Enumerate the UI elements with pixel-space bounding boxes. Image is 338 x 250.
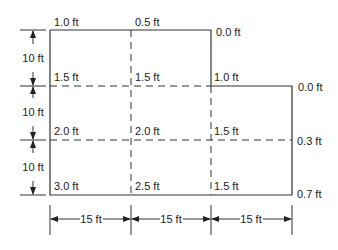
vertical-dimension-label: 10 ft — [22, 161, 43, 173]
node-label: 1.5 ft — [135, 71, 159, 83]
node-label: 1.5 ft — [214, 180, 238, 192]
vertical-dimension-label: 10 ft — [22, 52, 43, 64]
vertical-dimension-label: 10 ft — [22, 106, 43, 118]
horizontal-dimension-label: 15 ft — [160, 213, 181, 225]
node-label: 0.3 ft — [297, 135, 321, 147]
node-label: 1.0 ft — [214, 71, 238, 83]
node-label: 0.0 ft — [298, 81, 322, 93]
node-label: 1.0 ft — [54, 16, 78, 28]
node-label: 3.0 ft — [54, 180, 78, 192]
node-labels: 1.0 ft 0.5 ft 0.0 ft 1.5 ft 1.5 ft 1.0 f… — [54, 16, 322, 200]
outline — [50, 30, 292, 195]
grid-lines — [50, 30, 292, 195]
node-label: 1.5 ft — [214, 125, 238, 137]
node-label: 0.0 ft — [216, 26, 240, 38]
node-label: 1.5 ft — [54, 71, 78, 83]
node-label: 2.0 ft — [54, 125, 78, 137]
horizontal-dimension-label: 15 ft — [80, 213, 101, 225]
node-label: 2.5 ft — [135, 180, 159, 192]
node-label: 0.7 ft — [297, 188, 321, 200]
node-label: 2.0 ft — [135, 125, 159, 137]
node-label: 0.5 ft — [135, 16, 159, 28]
grid-diagram: 1.0 ft 0.5 ft 0.0 ft 1.5 ft 1.5 ft 1.0 f… — [0, 0, 338, 250]
horizontal-dimension-label: 15 ft — [240, 213, 261, 225]
